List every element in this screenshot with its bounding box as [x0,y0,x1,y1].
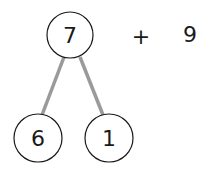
bond-line-right [80,57,103,115]
plus-operator: + [132,24,150,49]
addend-number: 9 [183,22,197,47]
left-number: 6 [31,126,45,151]
bond-line-left [42,57,64,115]
number-bond-diagram: 7 6 1 + 9 [0,0,209,170]
top-number: 7 [63,23,77,48]
right-number: 1 [102,126,116,151]
